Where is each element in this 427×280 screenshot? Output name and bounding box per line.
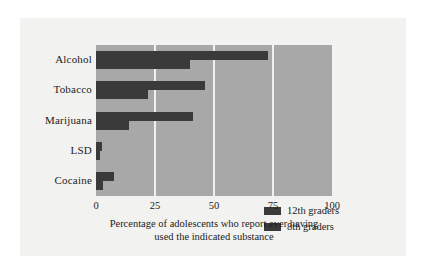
bar-tobacco-12th-graders <box>96 81 205 90</box>
chart-caption: Percentage of adolescents who report eve… <box>40 217 388 243</box>
category-label-alcohol: Alcohol <box>4 53 92 65</box>
category-label-tobacco: Tobacco <box>4 83 92 95</box>
category-axis-labels: AlcoholTobaccoMarijuanaLSDCocaine <box>0 45 92 196</box>
category-label-lsd: LSD <box>4 144 92 156</box>
x-tick-label-0: 0 <box>93 200 98 211</box>
bar-cocaine-12th-graders <box>96 172 114 181</box>
x-axis: 0255075100 <box>96 196 332 216</box>
bar-lsd-8th-graders <box>96 151 100 160</box>
bar-alcohol-12th-graders <box>96 51 268 60</box>
bar-alcohol-8th-graders <box>96 60 190 69</box>
bar-marijuana-8th-graders <box>96 121 129 130</box>
x-tick-label-50: 50 <box>209 200 220 211</box>
figure-root: AlcoholTobaccoMarijuanaLSDCocaine 12th g… <box>0 0 427 280</box>
caption-line-2: used the indicated substance <box>40 230 388 243</box>
bar-marijuana-12th-graders <box>96 112 193 121</box>
category-label-cocaine: Cocaine <box>4 174 92 186</box>
x-tick-label-75: 75 <box>268 200 279 211</box>
bar-group-marijuana <box>96 112 332 130</box>
bar-tobacco-8th-graders <box>96 90 148 99</box>
bar-group-alcohol <box>96 51 332 69</box>
bar-group-lsd <box>96 142 332 160</box>
x-tick-label-100: 100 <box>324 200 340 211</box>
bar-lsd-12th-graders <box>96 142 102 151</box>
x-tick-label-25: 25 <box>150 200 161 211</box>
bar-cocaine-8th-graders <box>96 181 103 190</box>
bar-group-cocaine <box>96 172 332 190</box>
bar-group-tobacco <box>96 81 332 99</box>
plot-area: 12th graders8th graders <box>96 45 332 196</box>
category-label-marijuana: Marijuana <box>4 114 92 126</box>
caption-line-1: Percentage of adolescents who report eve… <box>40 217 388 230</box>
